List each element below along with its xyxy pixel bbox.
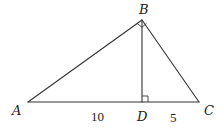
length-label-ad: 10 bbox=[91, 109, 104, 124]
vertex-label-d: D bbox=[136, 109, 148, 124]
vertex-label-a: A bbox=[11, 103, 21, 118]
segment-ab bbox=[28, 20, 142, 102]
vertex-label-b: B bbox=[138, 2, 149, 17]
vertex-label-c: C bbox=[204, 103, 214, 118]
right-angle-marker-d bbox=[142, 96, 148, 102]
length-label-dc: 5 bbox=[170, 110, 177, 125]
segment-bc bbox=[142, 20, 199, 102]
triangle-diagram: B A D C 10 5 bbox=[0, 0, 223, 132]
